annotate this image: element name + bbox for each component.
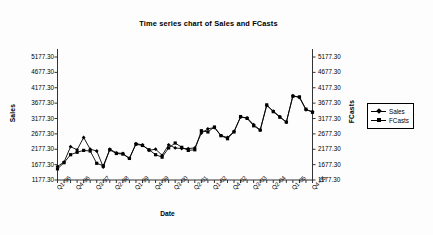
series-line-fcasts [58, 96, 313, 169]
data-point-fcasts [141, 144, 144, 147]
data-point-fcasts [291, 95, 294, 98]
data-point-fcasts [108, 148, 111, 151]
y-tick-label-right: 3177.30 [318, 115, 352, 122]
legend-marker-diamond-icon [371, 107, 386, 116]
y-tick-label-right: 2177.30 [318, 145, 352, 152]
axes-group [55, 49, 316, 183]
data-point-fcasts [239, 115, 242, 118]
chart-legend: Sales FCasts [367, 103, 414, 129]
data-point-fcasts [259, 129, 262, 132]
data-point-fcasts [200, 129, 203, 132]
data-point-fcasts [272, 110, 275, 113]
series-line-sales [58, 96, 313, 167]
data-point-fcasts [187, 149, 190, 152]
data-point-fcasts [134, 143, 137, 146]
data-point-fcasts [311, 111, 314, 114]
legend-item-fcasts: FCasts [371, 116, 409, 125]
data-point-fcasts [56, 167, 59, 170]
legend-marker-square-icon [371, 116, 386, 125]
chart-title: Time series chart of Sales and FCasts [0, 19, 433, 28]
y-tick-label-right: 4677.30 [318, 68, 352, 75]
data-point-fcasts [128, 157, 131, 160]
y-tick-label-left: 1677.30 [20, 161, 54, 168]
data-point-fcasts [298, 95, 301, 98]
y-axis-left-title: Sales [9, 104, 16, 122]
data-point-fcasts [232, 130, 235, 133]
y-tick-label-right: 2677.30 [318, 130, 352, 137]
data-point-fcasts [226, 137, 229, 140]
data-point-fcasts [252, 124, 255, 127]
data-point-sales [69, 145, 73, 149]
y-tick-label-left: 3677.30 [20, 99, 54, 106]
data-point-fcasts [193, 148, 196, 151]
data-point-fcasts [147, 148, 150, 151]
time-series-chart: Time series chart of Sales and FCasts Sa… [0, 0, 433, 235]
data-point-sales [82, 136, 86, 140]
data-point-fcasts [167, 146, 170, 149]
x-axis-title: Date [0, 210, 433, 217]
y-tick-label-left: 3177.30 [20, 115, 54, 122]
data-point-fcasts [102, 164, 105, 167]
y-tick-label-left: 4677.30 [20, 68, 54, 75]
data-point-fcasts [246, 117, 249, 120]
data-point-fcasts [89, 149, 92, 152]
y-tick-label-right: 5177.30 [318, 53, 352, 60]
y-tick-label-left: 2177.30 [20, 145, 54, 152]
legend-item-sales: Sales [371, 107, 409, 116]
data-point-fcasts [213, 125, 216, 128]
data-point-fcasts [82, 149, 85, 152]
data-point-fcasts [285, 121, 288, 124]
data-point-fcasts [69, 153, 72, 156]
data-point-fcasts [174, 141, 177, 144]
chart-title-text: Time series chart of Sales and FCasts [139, 19, 278, 28]
data-point-fcasts [265, 103, 268, 106]
y-tick-label-right: 4177.30 [318, 84, 352, 91]
data-point-fcasts [154, 153, 157, 156]
legend-label-fcasts: FCasts [389, 117, 409, 124]
x-axis-title-text: Date [160, 210, 174, 217]
y-tick-label-left: 4177.30 [20, 84, 54, 91]
data-point-fcasts [62, 161, 65, 164]
data-point-sales [95, 149, 99, 153]
data-point-fcasts [161, 156, 164, 159]
data-point-fcasts [76, 151, 79, 154]
data-point-fcasts [206, 130, 209, 133]
data-point-fcasts [95, 162, 98, 165]
y-tick-label-right: 1677.30 [318, 161, 352, 168]
y-tick-label-left: 2677.30 [20, 130, 54, 137]
data-point-fcasts [180, 146, 183, 149]
data-point-fcasts [278, 116, 281, 119]
data-point-fcasts [304, 108, 307, 111]
y-tick-label-right: 3677.30 [318, 99, 352, 106]
y-tick-label-left: 5177.30 [20, 53, 54, 60]
data-point-fcasts [219, 134, 222, 137]
series-group [56, 94, 315, 171]
data-point-fcasts [115, 152, 118, 155]
data-point-sales [173, 146, 177, 150]
y-tick-label-left: 1177.30 [20, 176, 54, 183]
data-point-fcasts [121, 152, 124, 155]
legend-label-sales: Sales [389, 108, 405, 115]
